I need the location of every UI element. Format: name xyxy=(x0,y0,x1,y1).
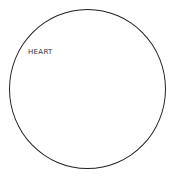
diagram: HEART xyxy=(0,0,175,179)
heart-label: HEART xyxy=(28,48,53,56)
circle-shape xyxy=(9,9,166,169)
